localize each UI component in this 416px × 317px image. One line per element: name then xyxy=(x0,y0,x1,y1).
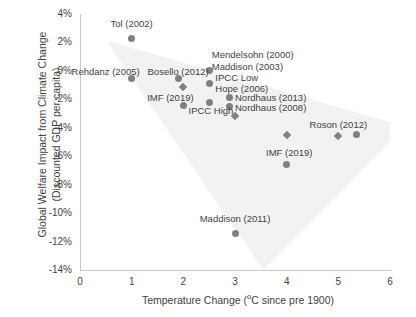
point-label: Bosello (2012) xyxy=(148,66,209,77)
x-axis-title: Temperature Change (oC since pre 1900) xyxy=(60,292,416,306)
x-axis-title-text-2: C since pre 1900) xyxy=(251,294,334,306)
y-tick-label: -14% xyxy=(36,264,72,275)
point-label: IPCC High xyxy=(189,105,234,116)
y-tick-label: -10% xyxy=(36,207,72,218)
x-axis-title-text: Temperature Change ( xyxy=(142,294,247,306)
data-point xyxy=(206,80,213,87)
point-label: Nordhaus (2008) xyxy=(235,102,306,113)
point-label: Maddison (2011) xyxy=(200,213,271,224)
point-label: Maddison (2003) xyxy=(212,61,283,72)
y-tick-label: -2% xyxy=(36,93,72,104)
y-tick-label: 0% xyxy=(36,65,72,76)
x-tick-label: 4 xyxy=(275,276,299,287)
scatter-chart: Global Welfare Impact from Climate Chang… xyxy=(0,0,416,317)
point-label: IMF (2019) xyxy=(266,147,312,158)
point-label: Tol (2002) xyxy=(111,18,153,29)
x-tick-label: 6 xyxy=(378,276,402,287)
point-label: IMF (2019) xyxy=(147,92,193,103)
point-label: Roson (2012) xyxy=(310,119,368,130)
x-tick-label: 3 xyxy=(223,276,247,287)
y-tick-label: 4% xyxy=(36,8,72,19)
y-tick-label: -12% xyxy=(36,236,72,247)
y-tick-label: -8% xyxy=(36,179,72,190)
x-tick-label: 1 xyxy=(120,276,144,287)
x-tick-label: 0 xyxy=(68,276,92,287)
point-label: Rehdanz (2005) xyxy=(72,66,140,77)
y-tick-label: -6% xyxy=(36,150,72,161)
data-point xyxy=(232,230,239,237)
point-label: Mendelsohn (2000) xyxy=(212,49,294,60)
x-tick-label: 5 xyxy=(326,276,350,287)
y-tick-label: 2% xyxy=(36,36,72,47)
point-label: IPCC Low xyxy=(215,72,258,83)
data-point xyxy=(128,35,135,42)
plot-area: Tol (2002)Rehdanz (2005)Bosello (2012)Me… xyxy=(80,14,390,270)
x-tick-label: 2 xyxy=(171,276,195,287)
y-tick-label: -4% xyxy=(36,122,72,133)
